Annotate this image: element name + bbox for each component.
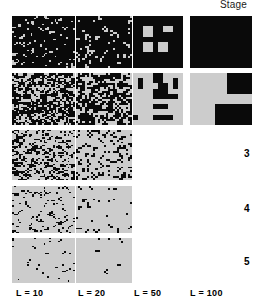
column-label-L-20: L = 20: [78, 288, 105, 298]
stage-header-label: Stage: [220, 0, 247, 10]
panel-stage-5-L-20: [76, 238, 132, 283]
panel-stage-2-L-20: [76, 73, 132, 125]
stage-label-5: 5: [244, 256, 250, 267]
panel-stage-1-L-20: [76, 16, 132, 68]
panel-image-stage-4-L-10: [12, 186, 75, 233]
stage-label-3: 3: [244, 148, 250, 159]
panel-stage-3-L-20: [76, 130, 132, 180]
panel-stage-3-L-10: [12, 130, 75, 180]
panel-image-stage-1-L-50: [133, 16, 183, 68]
panel-stage-4-L-20: [76, 186, 132, 233]
panel-image-stage-4-L-20: [76, 186, 132, 233]
panel-image-stage-5-L-10: [12, 238, 75, 283]
panel-stage-2-L-50: [133, 73, 183, 125]
panel-image-stage-3-L-20: [76, 130, 132, 180]
panel-stage-4-L-10: [12, 186, 75, 233]
panel-image-stage-1-L-10: [12, 16, 75, 68]
panel-image-stage-1-L-20: [76, 16, 132, 68]
panel-image-stage-2-L-50: [133, 73, 183, 125]
panel-stage-2-L-100: [190, 73, 252, 125]
panel-stage-1-L-100: [190, 16, 252, 68]
panel-stage-1-L-50: [133, 16, 183, 68]
panel-image-stage-3-L-10: [12, 130, 75, 180]
column-label-L-10: L = 10: [16, 288, 43, 298]
panel-image-stage-1-L-100: [190, 16, 252, 68]
column-label-L-100: L = 100: [190, 288, 223, 298]
panel-stage-2-L-10: [12, 73, 75, 125]
stage-label-4: 4: [244, 203, 250, 214]
figure-panel-matrix: Stage 12345 L = 10L = 20L = 50L = 100: [0, 0, 275, 305]
panel-image-stage-2-L-10: [12, 73, 75, 125]
panel-image-stage-2-L-100: [190, 73, 252, 125]
panel-stage-1-L-10: [12, 16, 75, 68]
panel-image-stage-5-L-20: [76, 238, 132, 283]
column-label-L-50: L = 50: [134, 288, 161, 298]
panel-stage-5-L-10: [12, 238, 75, 283]
panel-image-stage-2-L-20: [76, 73, 132, 125]
